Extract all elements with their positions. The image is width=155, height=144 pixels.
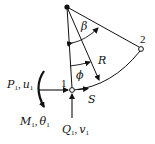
radius-label: R (97, 54, 106, 67)
node-2-label: 2 (140, 33, 146, 45)
radius-line-node1 (67, 7, 72, 88)
beam-arc (74, 51, 140, 90)
shear-load-label: Q1,v1 (62, 123, 90, 137)
phi-label: ϕ (76, 69, 84, 82)
axial-load-label: P1,u1 (6, 78, 34, 92)
node-2 (139, 47, 144, 52)
moment-arrow (39, 71, 45, 107)
node-1 (70, 88, 75, 93)
beta-label: β (80, 20, 87, 33)
curved-beam-diagram: β ϕ R S 1 2 P1,u1 M1,θ1 Q1,v1 (0, 0, 155, 144)
arc-length-label: S (88, 93, 96, 106)
node-1-label: 1 (61, 77, 67, 89)
phi-angle-arc (70, 62, 90, 66)
moment-label: M1,θ1 (19, 115, 50, 129)
